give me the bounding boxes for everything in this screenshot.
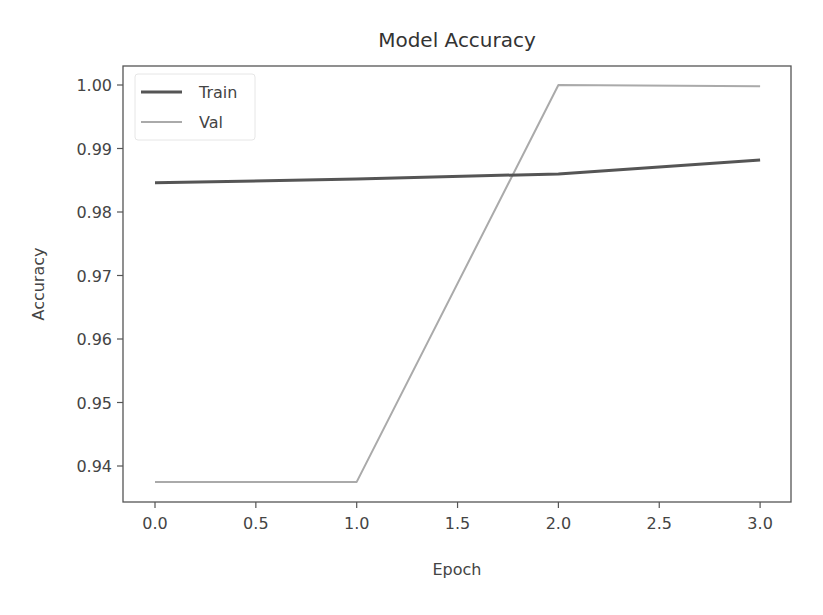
x-tick-label: 0.0 <box>142 514 167 533</box>
legend-train-label: Train <box>198 83 237 102</box>
chart-title: Model Accuracy <box>378 28 536 52</box>
x-tick-label: 3.0 <box>747 514 772 533</box>
legend: Train Val <box>135 74 255 140</box>
x-tick-label: 2.5 <box>647 514 672 533</box>
y-tick-label: 0.98 <box>76 203 112 222</box>
y-tick-label: 0.99 <box>76 140 112 159</box>
val-line <box>155 85 760 482</box>
x-tick-label: 1.0 <box>344 514 369 533</box>
y-tick-label: 0.97 <box>76 267 112 286</box>
x-axis-ticks: 0.00.51.01.52.02.53.0 <box>142 502 773 533</box>
y-tick-label: 0.94 <box>76 457 112 476</box>
x-tick-label: 0.5 <box>243 514 268 533</box>
x-axis-label: Epoch <box>433 560 482 579</box>
train-line <box>155 160 760 183</box>
y-tick-label: 1.00 <box>76 76 112 95</box>
data-series <box>155 85 760 482</box>
y-tick-label: 0.96 <box>76 330 112 349</box>
legend-val-label: Val <box>199 113 223 132</box>
x-tick-label: 2.0 <box>546 514 571 533</box>
y-axis-label: Accuracy <box>29 247 48 320</box>
x-tick-label: 1.5 <box>445 514 470 533</box>
y-tick-label: 0.95 <box>76 394 112 413</box>
y-axis-ticks: 0.940.950.960.970.980.991.00 <box>76 76 123 476</box>
accuracy-line-chart: Model Accuracy 0.00.51.01.52.02.53.0 0.9… <box>0 0 823 615</box>
